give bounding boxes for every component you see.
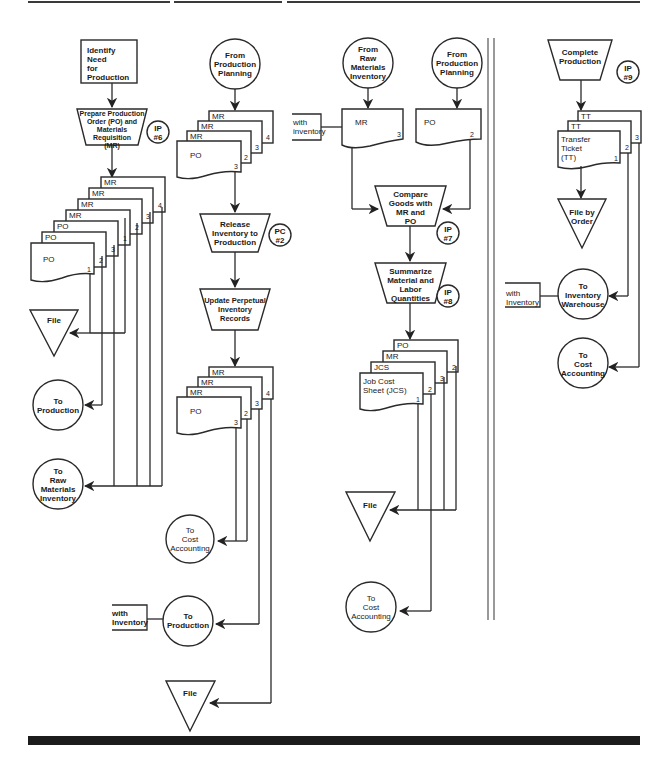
to-cost-accounting-label-2: To Cost Accounting xyxy=(346,594,396,621)
copy-number: 2 xyxy=(452,364,456,372)
doc-tag: MR xyxy=(212,112,224,121)
copy-number: 2 xyxy=(99,257,103,265)
copy-number: 3 xyxy=(234,419,238,427)
copy-number: 1 xyxy=(614,155,618,163)
file-by-order-label: File by Order xyxy=(562,208,602,226)
copy-number: 3 xyxy=(255,400,259,408)
pc2-label: PC #2 xyxy=(269,227,291,245)
file-triangle-3 xyxy=(346,492,395,541)
doc-tag: PO xyxy=(45,233,57,242)
doc-tag: MR xyxy=(92,189,104,198)
prepare-po-label: Prepare Production Order (PO) and Materi… xyxy=(77,110,147,150)
copy-number: 3 xyxy=(234,163,238,171)
summarize-label: Summarize Material and Labor Quantities xyxy=(375,267,446,303)
doc-tag: MR xyxy=(69,211,81,220)
copy-number: 2 xyxy=(244,154,248,162)
with-inventory-label-3: with Inventory xyxy=(506,289,546,307)
doc-tag: PO xyxy=(43,255,55,264)
doc-tag: MR xyxy=(81,200,93,209)
to-production-label-2: To Production xyxy=(163,612,213,630)
ip8-label: IP #8 xyxy=(437,288,459,306)
with-inventory-label-2: with inventory xyxy=(293,118,323,136)
doc-tag: PO xyxy=(190,407,202,416)
copy-number: 1 xyxy=(87,266,91,274)
doc-tag: MR xyxy=(104,178,116,187)
doc-tag: PO xyxy=(424,118,436,127)
file-label-3: File xyxy=(350,501,390,510)
doc-tag: MR xyxy=(190,132,202,141)
copy-number: 1 xyxy=(416,396,420,404)
copy-number: 3 xyxy=(440,375,444,383)
doc-tag: PO xyxy=(190,151,202,160)
release-inventory-label: Release Inventory to Production xyxy=(200,220,270,247)
from-production-planning-label-2: From Production Planning xyxy=(432,50,482,77)
identify-need-label: Identify Need for Production xyxy=(87,46,137,82)
ip9-label: IP #9 xyxy=(617,64,639,82)
to-cost-accounting-label-3: To Cost Accounting xyxy=(558,351,608,378)
job-cost-sheet-label: Job Cost Sheet (JCS) xyxy=(363,377,419,395)
to-raw-materials-label: To Raw Materials Inventory xyxy=(33,467,83,503)
copy-number: 2 xyxy=(244,410,248,418)
complete-production-label: Complete Production xyxy=(548,48,612,66)
compare-goods-label: Compare Goods with MR and PO xyxy=(375,190,446,226)
with-inventory-label-1: with Inventory xyxy=(112,609,152,627)
copy-number: 3 xyxy=(146,213,150,221)
ip7-label: IP #7 xyxy=(437,225,459,243)
doc-tag: TT xyxy=(581,112,591,121)
doc-tag: MR xyxy=(355,118,367,127)
ip6-label: IP #6 xyxy=(147,124,169,142)
copy-number: 2 xyxy=(135,224,139,232)
to-inventory-warehouse-label: To Inventory Warehouse xyxy=(558,282,608,309)
copy-number: 3 xyxy=(397,131,401,139)
copy-number: 3 xyxy=(111,246,115,254)
update-perpetual-label: Update Perpetual Inventory Records xyxy=(198,296,272,323)
copy-number: 3 xyxy=(255,144,259,152)
copy-number: 2 xyxy=(470,131,474,139)
doc-tag: PO xyxy=(57,222,69,231)
copy-number: 4 xyxy=(266,390,270,398)
file-label-1: File xyxy=(34,316,74,325)
copy-number: 2 xyxy=(428,386,432,394)
copy-number: 4 xyxy=(266,134,270,142)
file-label-2: File xyxy=(170,689,210,698)
from-raw-materials-label: From Raw Materials Inventory xyxy=(343,45,393,81)
transfer-ticket-label: Transfer Ticket (TT) xyxy=(561,135,611,162)
doc-tag: MR xyxy=(212,368,224,377)
doc-tag: JCS xyxy=(374,363,389,372)
doc-tag: MR xyxy=(201,378,213,387)
copy-number: 2 xyxy=(625,144,629,152)
doc-tag: MR xyxy=(386,352,398,361)
copy-number: 1 xyxy=(123,235,127,243)
copy-number: 3 xyxy=(635,134,639,142)
bottom-rule xyxy=(28,736,640,745)
copy-number: 4 xyxy=(158,202,162,210)
to-production-label-1: To Production xyxy=(33,397,83,415)
doc-tag: MR xyxy=(190,388,202,397)
to-cost-accounting-label-1: To Cost Accounting xyxy=(165,526,215,553)
doc-tag: PO xyxy=(397,341,409,350)
from-production-planning-label-1: From Production Planning xyxy=(210,51,260,78)
doc-tag: TT xyxy=(571,122,581,131)
doc-tag: MR xyxy=(201,122,213,131)
